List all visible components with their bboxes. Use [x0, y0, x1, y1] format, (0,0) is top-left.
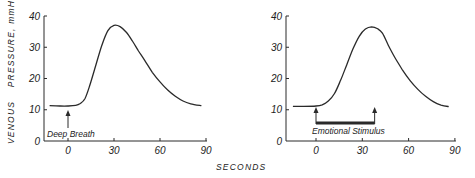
y-tick-label: 30 — [271, 42, 283, 53]
chart-deep-breath: 010203040 0306090 Deep Breath — [28, 11, 212, 157]
y-axis-right: 010203040 — [270, 11, 289, 147]
pressure-curve-deep-breath — [50, 25, 202, 106]
y-axis-title-part2: PRESSURE, mmHg — [6, 0, 16, 87]
pressure-curve-emotional-stimulus — [293, 27, 449, 107]
y-tick-label: 0 — [276, 136, 282, 147]
x-axis-right: 0306090 — [286, 138, 461, 156]
x-tick-label: 90 — [200, 145, 212, 156]
y-axis-left: 010203040 — [28, 11, 47, 147]
y-tick-label: 10 — [29, 104, 41, 115]
x-tick-label: 30 — [108, 145, 120, 156]
chart-emotional-stimulus: 010203040 0306090 Emotional Stimulus — [270, 11, 461, 157]
y-tick-label: 30 — [29, 42, 41, 53]
y-tick-label: 20 — [270, 73, 283, 84]
x-tick-label: 60 — [403, 145, 415, 156]
y-tick-label: 40 — [271, 11, 283, 22]
deep-breath-arrow: Deep Breath — [47, 110, 95, 139]
y-tick-label: 0 — [34, 136, 40, 147]
y-tick-label: 10 — [271, 104, 283, 115]
y-axis-title: VENOUS PRESSURE, mmHg — [6, 0, 16, 144]
emotional-stimulus-label: Emotional Stimulus — [312, 126, 386, 136]
x-tick-label: 90 — [449, 145, 461, 156]
x-axis-title: SECONDS — [216, 162, 266, 172]
x-tick-label: 30 — [357, 145, 369, 156]
y-axis-title-part1: VENOUS — [6, 101, 16, 144]
x-axis-left: 0306090 — [44, 138, 212, 156]
x-tick-label: 0 — [313, 145, 319, 156]
deep-breath-label: Deep Breath — [47, 129, 95, 139]
x-tick-label: 0 — [65, 145, 71, 156]
x-tick-label: 60 — [154, 145, 166, 156]
arrow-up-icon — [314, 107, 319, 113]
arrow-up-icon — [66, 110, 71, 116]
venous-pressure-figure: VENOUS PRESSURE, mmHg 010203040 0306090 … — [0, 0, 475, 178]
emotional-stimulus-bracket: Emotional Stimulus — [312, 107, 386, 136]
y-tick-label: 20 — [28, 73, 41, 84]
arrow-up-icon — [372, 107, 377, 113]
svg-text:VENOUS PRESSURE, mmHg: VENOUS PRESSURE, mmHg — [6, 0, 16, 144]
y-tick-label: 40 — [29, 11, 41, 22]
